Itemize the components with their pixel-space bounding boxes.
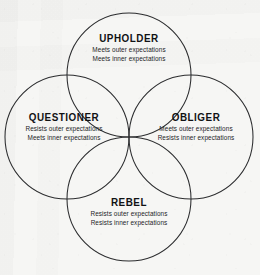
quadrant-questioner: QUESTIONER Resists outer expectations Me…: [2, 112, 126, 141]
quadrant-obliger-line1: Meets outer expectations: [136, 126, 256, 133]
quadrant-obliger-line2: Resists inner expectations: [136, 135, 256, 142]
quadrant-rebel-line2: Resists inner expectations: [61, 220, 197, 227]
quadrant-upholder-line1: Meets outer expectations: [61, 47, 197, 54]
quadrant-rebel: REBEL Resists outer expectations Resists…: [59, 197, 199, 226]
quadrant-questioner-line1: Resists outer expectations: [4, 126, 124, 133]
quadrant-obliger-title: OBLIGER: [138, 112, 255, 123]
quadrant-obliger: OBLIGER Meets outer expectations Resists…: [134, 112, 258, 141]
quadrant-rebel-line1: Resists outer expectations: [61, 211, 197, 218]
quadrant-questioner-line2: Meets inner expectations: [4, 135, 124, 142]
quadrant-rebel-title: REBEL: [63, 197, 195, 208]
quadrant-upholder-line2: Meets inner expectations: [61, 56, 197, 63]
quadrant-questioner-title: QUESTIONER: [6, 112, 123, 123]
quadrant-upholder-title: UPHOLDER: [63, 33, 195, 44]
four-tendencies-diagram: UPHOLDER Meets outer expectations Meets …: [0, 0, 260, 275]
quadrant-upholder: UPHOLDER Meets outer expectations Meets …: [59, 33, 199, 62]
